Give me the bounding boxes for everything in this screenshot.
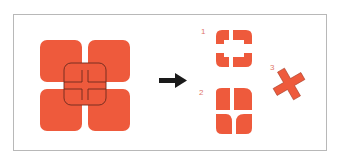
result-3-label: 3 (270, 64, 274, 72)
diagram-canvas (0, 0, 340, 155)
arrow-right-icon (159, 73, 187, 88)
result-1-shapes (216, 30, 252, 67)
result-1-label: 1 (201, 28, 205, 36)
result-2-shapes (216, 88, 252, 134)
result-2-label: 2 (199, 89, 203, 97)
source-shapes (40, 40, 130, 131)
